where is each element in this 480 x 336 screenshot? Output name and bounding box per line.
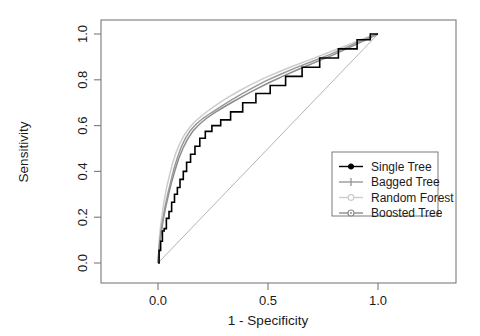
x-tick-label: 0.0	[149, 293, 167, 308]
legend-label-bagged-tree: Bagged Tree	[371, 175, 440, 189]
x-axis-title: 1 - Specificity	[228, 313, 309, 328]
y-tick-label: 0.2	[75, 208, 90, 226]
legend-label-random-forest: Random Forest	[371, 191, 454, 205]
x-tick-label: 0.5	[259, 293, 277, 308]
x-tick-label: 1.0	[369, 293, 387, 308]
y-tick-label: 0.8	[75, 71, 90, 89]
legend-label-single-tree: Single Tree	[371, 160, 432, 174]
legend: Single TreeBagged TreeRandom ForestBoost…	[332, 152, 454, 220]
y-tick-label: 0.0	[75, 254, 90, 272]
open-circle-icon	[348, 195, 354, 201]
filled-circle-icon	[348, 164, 353, 169]
legend-label-boosted-tree: Boosted Tree	[371, 206, 443, 220]
dotted-circle-center-icon	[350, 212, 352, 214]
y-tick-label: 1.0	[75, 25, 90, 43]
y-tick-label: 0.6	[75, 117, 90, 135]
roc-chart-figure: 0.00.20.40.60.81.0 0.00.51.0 1 - Specifi…	[0, 0, 480, 336]
y-axis-title: Sensitivity	[16, 121, 31, 182]
roc-plot-svg: 0.00.20.40.60.81.0 0.00.51.0 1 - Specifi…	[0, 0, 480, 336]
y-tick-label: 0.4	[75, 162, 90, 180]
